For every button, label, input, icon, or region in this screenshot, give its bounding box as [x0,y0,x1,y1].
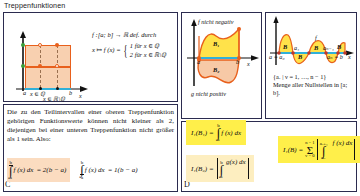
integrand: f (x) dx [333,139,353,147]
page-title: Treppenfunktionen [4,1,65,10]
x-tick-rq [56,87,59,90]
integral-symbol: b ∫ a [217,123,221,142]
absolute-value-bars: b ∫ a g(x) dx [217,158,249,179]
region-label-4: B [337,43,341,50]
sum-lower: ν = 0 [305,154,314,159]
panel-b-tick-b: b [236,58,239,65]
panel-d: D I₁(B₁) = b ∫ a f (x) dx I₁(B₂) = b ∫ a… [181,121,357,192]
formula-i1-b1-lhs: I₁(B₁) = [191,129,214,137]
panel-b-caption-top: f nicht negativ [198,18,233,25]
integral-glyph: ∫ [322,146,326,155]
panel-bd-tick-a0: a = a₀ [269,53,285,60]
filled-dot-top-rq [55,43,59,47]
lower-limit: a [81,175,83,180]
panel-b: f nicht negativ g nicht positiv B₁ B₂ a … [181,12,262,119]
upper-integral-symbol: b ∫ a [9,160,13,180]
region-b1-label: B₁ [213,40,220,47]
lower-result: = 1(b − a) [108,166,138,174]
integrand: g(x) dx [226,158,246,166]
panel-bd-axis-x: x [348,53,351,60]
lower-integrand: f (x) dx [85,166,105,174]
panel-bd-fn-label: f [315,34,317,41]
region-label-2: B [298,53,302,60]
upper-integrand: f (x) dx [14,166,34,174]
lower-limit: a [220,174,222,179]
integral-glyph: ∫ [217,128,221,137]
cases-column: 1 für x ∈ ℚ 2 für x ∈ ℝ\ℚ [130,42,166,59]
panel-a: a b x ∈ ℚ x ∈ ℝ\ℚ x f :[a; b] → ℝ def. d… [3,12,178,102]
piecewise-definition: x ↦ f (x) = { 1 für x ∈ ℚ 2 für x ∈ ℝ\ℚ [92,42,178,59]
formula-i1-b1: I₁(B₁) = b ∫ a f (x) dx [186,120,246,145]
zero-set-description: Menge aller Nullstellen in [a; b]. [273,81,355,97]
tick-label-rq: x ∈ ℝ\ℚ [43,95,65,102]
level-one-line [25,66,71,68]
zero-set-notation: {aᵥ | ν = 1, …, n − 1} [273,73,355,81]
tick-label-a: a [23,89,26,96]
panel-bd-tick-an1: aₙ₋₁ [323,44,334,51]
integrand: f (x) dx [221,129,241,137]
axis-dot-one [21,64,25,68]
definition-line: f :[a; b] → ℝ def. durch [92,31,178,40]
integral-glyph: ∫ [220,165,224,174]
formula-i1-b-total: I₁(B) = n − 1 Σ ν = 0 aᵥ₊₁ ∫ aᵥ f (x) dx [278,136,360,163]
panel-bd-graph: B B B B f a = a₀ a₁ aₙ₋₁ aₙ = b x [268,15,356,75]
formula-i1-b-lhs: I₁(B) = [283,146,303,154]
region-b2-label: B₂ [213,66,220,73]
open-dot-mid-rq [55,64,59,68]
lower-limit: aᵥ [322,155,326,160]
panel-b-graph: f nicht negativ g nicht positiv B₁ B₂ a … [185,16,261,104]
panel-bd: B B B B f a = a₀ a₁ aₙ₋₁ aₙ = b x {aᵥ | … [265,12,357,119]
integral-symbol: aᵥ₊₁ ∫ aᵥ [320,141,328,160]
axis-dot-two [21,43,25,47]
panel-bd-tick-an: aₙ = b [327,53,343,60]
filled-dot-mid-q [38,64,42,68]
region-label-3: B [314,44,318,51]
tick-label-b: b [69,89,72,96]
upper-integral-formula: b ∫ a f (x) dx = 2(b − a) [7,158,70,182]
case-rational: 1 für x ∈ ℚ [130,42,166,51]
open-dot-top-q [38,43,42,47]
case-irrational: 2 für x ∈ ℝ\ℚ [130,51,166,60]
region-label-1: B [283,43,287,50]
formula-i1-b2: I₁(B₂) = b ∫ a g(x) dx [186,155,254,182]
brace-icon: { [123,46,127,55]
summation-symbol: n − 1 Σ ν = 0 [305,141,314,159]
lower-limit: a [217,137,219,142]
axis-label-x: x [79,92,82,99]
upper-result: = 2(b − a) [36,166,66,174]
integral-symbol: b ∫ a [220,160,224,179]
integral-glyph: ∫ [9,165,13,175]
panel-b-axis-x: x [247,60,250,67]
panel-c-body: Die zu den Teilintervallen einer oberen … [7,107,174,143]
panel-bd-tick-a1: a₁ [294,44,299,51]
panel-a-graph: a b x ∈ ℚ x ∈ ℝ\ℚ x [12,31,90,103]
lower-limit: a [10,175,12,180]
panel-bd-note: {aᵥ | ν = 1, …, n − 1} Menge aller Nulls… [273,73,355,98]
integral-glyph: ∫ [80,165,84,175]
worksheet-page: Treppenfunktionen [0,0,360,196]
panel-b-tick-a: a [197,58,200,65]
formula-i1-b2-lhs: I₁(B₂) = [191,165,214,173]
lower-integral-formula: b ∫ a f (x) dx = 1(b − a) [80,160,137,180]
panel-b-caption-bottom: g nicht positiv [191,90,226,97]
panel-c-formulas: b ∫ a f (x) dx = 2(b − a) b ∫ a f (x) dx… [7,158,175,182]
absolute-value-bars: aᵥ₊₁ ∫ aᵥ f (x) dx [317,139,356,160]
mapping-label: x ↦ f (x) = [92,46,121,55]
lower-integral-symbol: b ∫ a [80,160,84,180]
panel-a-formula: f :[a; b] → ℝ def. durch x ↦ f (x) = { 1… [92,31,178,59]
